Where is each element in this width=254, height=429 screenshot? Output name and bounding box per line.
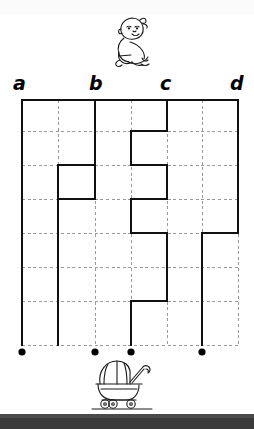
page-bottom-band — [0, 414, 254, 429]
page-bottom-band-highlight — [0, 414, 254, 418]
maze-path-segments — [22, 100, 238, 345]
end-dots — [18, 348, 205, 355]
puzzle-page: a b c d — [0, 0, 254, 429]
stroller-illustration — [86, 356, 156, 412]
grid-vertical-lines — [22, 100, 238, 345]
dot-1 — [18, 348, 25, 355]
dot-4 — [198, 348, 205, 355]
maze-diagram — [0, 0, 254, 380]
dot-2 — [91, 348, 98, 355]
dot-3 — [127, 348, 134, 355]
grid-horizontal-lines — [22, 100, 238, 345]
